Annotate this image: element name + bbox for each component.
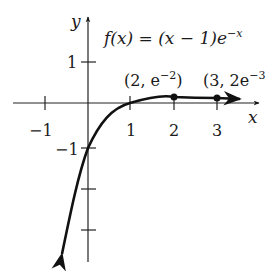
tick-label-x-2: 2 xyxy=(169,121,179,140)
function-graph: y x f(x) = (x − 1)e−x −1 1 2 3 1 −1 (2, … xyxy=(0,0,273,271)
x-axis-label: x xyxy=(248,107,258,127)
function-title: f(x) = (x − 1)e−x xyxy=(102,27,243,48)
point-2-e-2 xyxy=(171,94,178,101)
point-label-2: (2, e−2) xyxy=(124,69,183,90)
tick-label-y-1: 1 xyxy=(67,53,77,72)
tick-label-y-neg1: −1 xyxy=(55,140,79,159)
point-label-3: (3, 2e−3 xyxy=(203,69,265,90)
tick-label-x-1: 1 xyxy=(126,121,136,140)
y-axis-label: y xyxy=(70,11,81,31)
point-3-2e-3 xyxy=(214,95,221,102)
tick-label-x-neg1: −1 xyxy=(29,121,53,140)
tick-label-x-3: 3 xyxy=(212,121,222,140)
